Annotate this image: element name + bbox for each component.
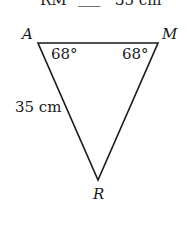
angle-label-a: 68° (51, 47, 78, 62)
side-label-ar: 35 cm (15, 100, 61, 115)
vertex-label-a: A (22, 27, 33, 42)
angle-label-m: 68° (122, 47, 149, 62)
vertex-label-m: M (162, 27, 177, 42)
vertex-label-r: R (93, 187, 104, 202)
